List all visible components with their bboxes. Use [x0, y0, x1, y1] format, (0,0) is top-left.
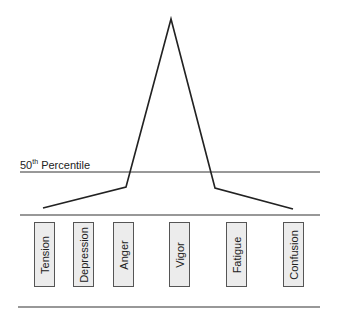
scale-box-anger: Anger: [113, 222, 134, 287]
scale-box-depression: Depression: [73, 222, 94, 287]
scale-box-tension: Tension: [34, 222, 55, 287]
scale-box-confusion: Confusion: [283, 222, 304, 287]
profile-line: [43, 19, 293, 209]
scale-box-vigor: Vigor: [169, 222, 190, 287]
percentile-label: 50th Percentile: [20, 158, 90, 171]
scale-box-fatigue: Fatigue: [226, 222, 247, 287]
